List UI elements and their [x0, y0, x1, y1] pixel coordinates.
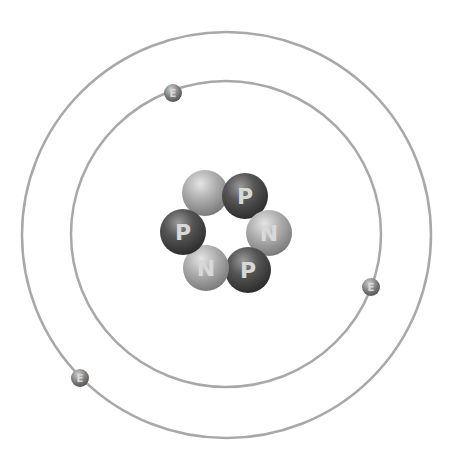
- neutron-label: N: [197, 256, 215, 281]
- electron-label: E: [77, 373, 84, 384]
- electron: E: [164, 84, 182, 102]
- electron-label: E: [368, 282, 375, 293]
- atom-diagram: PNPNP EEE: [0, 0, 454, 468]
- electron-label: E: [170, 88, 177, 99]
- proton-sphere: P: [160, 209, 206, 255]
- neutron-label: N: [260, 221, 278, 246]
- inner-orbit: [71, 81, 381, 387]
- proton-label: P: [240, 258, 256, 283]
- proton-sphere: P: [225, 247, 271, 293]
- electron: E: [362, 278, 380, 296]
- electron: E: [71, 369, 89, 387]
- proton-label: P: [237, 184, 253, 209]
- proton-label: P: [175, 220, 191, 245]
- nucleus: PNPNP: [160, 170, 292, 293]
- neutron-sphere: [182, 170, 228, 216]
- neutron-ball: [182, 170, 228, 216]
